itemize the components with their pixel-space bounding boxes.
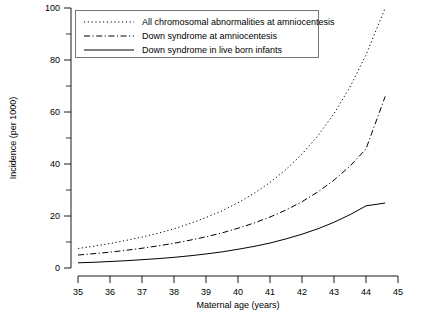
y-tick-label: 60 bbox=[50, 107, 60, 117]
legend: All chromosomal abnormalities at amnioce… bbox=[76, 11, 336, 58]
y-tick-label: 100 bbox=[45, 3, 60, 13]
x-tick-label: 35 bbox=[73, 287, 83, 297]
y-tick-label: 0 bbox=[55, 263, 60, 273]
x-tick-label: 42 bbox=[297, 287, 307, 297]
x-tick-label: 44 bbox=[361, 287, 371, 297]
y-tick-label: 20 bbox=[50, 211, 60, 221]
y-tick-label: 40 bbox=[50, 159, 60, 169]
x-tick-label: 41 bbox=[265, 287, 275, 297]
x-tick-label: 38 bbox=[169, 287, 179, 297]
legend-label-1: Down syndrome at amniocentesis bbox=[142, 31, 278, 41]
x-tick-label: 39 bbox=[201, 287, 211, 297]
x-tick-label: 37 bbox=[137, 287, 147, 297]
legend-label-0: All chromosomal abnormalities at amnioce… bbox=[142, 17, 335, 27]
y-tick-label: 80 bbox=[50, 55, 60, 65]
x-axis-title: Maternal age (years) bbox=[196, 300, 279, 310]
legend-label-2: Down syndrome in live born infants bbox=[142, 45, 283, 55]
x-tick-label: 40 bbox=[233, 287, 243, 297]
x-tick-label: 43 bbox=[329, 287, 339, 297]
incidence-vs-maternal-age-chart: 020406080100 Incidence (per 1000) 353637… bbox=[0, 0, 424, 323]
y-axis-title: Incidence (per 1000) bbox=[8, 97, 18, 180]
x-tick-label: 36 bbox=[105, 287, 115, 297]
x-tick-label: 45 bbox=[393, 287, 403, 297]
